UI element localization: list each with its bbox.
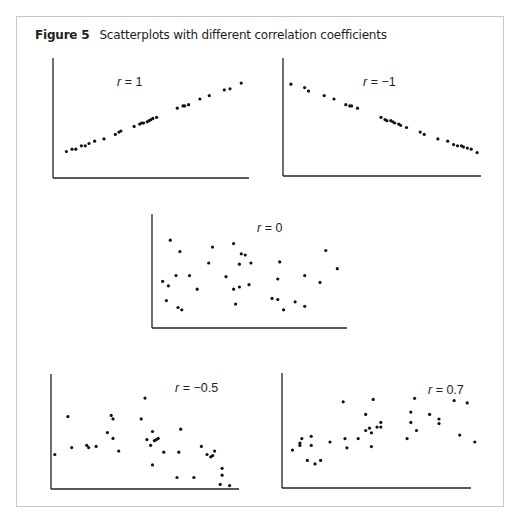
data-point (379, 426, 382, 429)
data-point (318, 281, 321, 284)
data-point (95, 445, 98, 448)
correlation-label: r = 0 (257, 221, 282, 235)
data-point (106, 431, 109, 434)
data-point (188, 274, 191, 277)
data-point (300, 437, 303, 440)
data-point (228, 87, 231, 90)
data-point (224, 275, 227, 278)
data-point (310, 444, 313, 447)
data-point (221, 467, 224, 470)
data-point (70, 446, 73, 449)
data-point (102, 137, 105, 140)
data-point (356, 107, 359, 110)
r-value: = −1 (367, 75, 396, 89)
data-point (437, 417, 440, 420)
data-point (93, 140, 96, 143)
data-point (169, 239, 172, 242)
data-point (375, 426, 378, 429)
data-point (324, 249, 327, 252)
data-point (247, 283, 250, 286)
data-point (238, 285, 241, 288)
data-point (165, 299, 168, 302)
data-point (462, 145, 465, 148)
data-point (303, 86, 306, 89)
data-point (310, 435, 313, 438)
data-point (276, 298, 279, 301)
data-point (344, 103, 347, 106)
data-point (249, 261, 252, 264)
data-point (80, 144, 83, 147)
scatterplot-panel-2: r = −1 (283, 58, 481, 176)
data-point (177, 451, 180, 454)
data-point (117, 450, 120, 453)
data-point (213, 450, 216, 453)
data-point (87, 446, 90, 449)
data-point (409, 421, 412, 424)
data-point (364, 413, 367, 416)
data-point (303, 274, 306, 277)
data-point (370, 445, 373, 448)
data-point (219, 483, 222, 486)
data-point (453, 399, 456, 402)
data-point (175, 476, 178, 479)
data-point (368, 427, 371, 430)
data-point (276, 277, 279, 280)
data-point (196, 288, 199, 291)
data-point (393, 121, 396, 124)
data-point (180, 308, 183, 311)
data-point (221, 474, 224, 477)
data-point (133, 125, 136, 128)
data-point (458, 434, 461, 437)
data-point (294, 300, 297, 303)
data-point (370, 431, 373, 434)
data-point (466, 401, 469, 404)
data-point (323, 94, 326, 97)
data-point (207, 261, 210, 264)
data-point (423, 133, 426, 136)
data-point (84, 144, 87, 147)
data-point (232, 288, 235, 291)
data-point (456, 144, 459, 147)
data-point (145, 438, 148, 441)
data-point (114, 133, 117, 136)
data-point (234, 303, 237, 306)
data-point (466, 147, 469, 150)
data-point (291, 449, 294, 452)
data-point (149, 444, 152, 447)
data-point (155, 116, 158, 119)
data-point (211, 246, 214, 249)
data-point (413, 397, 416, 400)
data-point (289, 83, 292, 86)
r-value: = 0.7 (432, 383, 464, 397)
data-point (200, 445, 203, 448)
data-point (379, 116, 382, 119)
r-value: = −0.5 (179, 381, 218, 395)
data-point (208, 94, 211, 97)
data-point (157, 437, 160, 440)
data-point (303, 305, 306, 308)
data-point (470, 148, 473, 151)
data-point (142, 121, 145, 124)
data-point (345, 446, 348, 449)
data-point (428, 413, 431, 416)
data-point (143, 397, 146, 400)
data-point (223, 88, 226, 91)
correlation-label: r = 0.7 (428, 383, 464, 397)
data-point (151, 463, 154, 466)
scatterplot-grid: r = 1r = −1r = 0r = −0.5r = 0.7 (0, 0, 531, 526)
data-point (87, 142, 90, 145)
data-point (176, 306, 179, 309)
data-point (350, 104, 353, 107)
data-point (336, 267, 339, 270)
r-value: = 0 (261, 221, 282, 235)
data-point (119, 129, 122, 132)
data-point (187, 103, 190, 106)
data-point (162, 451, 165, 454)
data-point (437, 422, 440, 425)
data-point (343, 437, 346, 440)
correlation-label: r = −1 (363, 75, 396, 89)
data-point (244, 253, 247, 256)
data-point (436, 137, 439, 140)
data-point (70, 148, 73, 151)
data-point (342, 400, 345, 403)
